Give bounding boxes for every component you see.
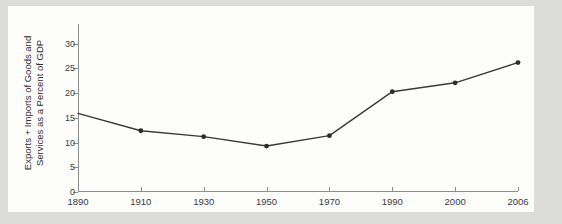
- x-tick-label: 2006: [507, 197, 528, 207]
- series-polyline: [78, 63, 518, 147]
- page-background: Exports + Imports of Goods and Services …: [0, 0, 562, 224]
- x-tick-label: 1910: [130, 197, 151, 207]
- y-tick-label: 15: [65, 113, 75, 122]
- chart-card: Exports + Imports of Goods and Services …: [8, 6, 534, 212]
- data-point-marker: [516, 60, 521, 65]
- data-point-marker: [453, 80, 458, 85]
- y-tick-label: 20: [65, 89, 75, 98]
- y-axis-title-text: Exports + Imports of Goods and Services …: [22, 18, 46, 188]
- y-tick-label: 5: [70, 163, 75, 172]
- y-tick-label: 30: [65, 39, 75, 48]
- y-tick-label: 25: [65, 64, 75, 73]
- data-point-marker: [138, 128, 143, 133]
- data-point-marker: [201, 134, 206, 139]
- data-point-marker: [390, 89, 395, 94]
- x-tick-mark: [518, 187, 519, 191]
- plot-area: 051015202530 189019101930195019701990200…: [78, 24, 518, 192]
- y-tick-label: 10: [65, 138, 75, 147]
- data-point-marker: [327, 133, 332, 138]
- x-tick-label: 1990: [382, 197, 403, 207]
- x-tick-label: 1950: [256, 197, 277, 207]
- series-line-chart: [78, 24, 518, 192]
- x-tick-label: 1970: [319, 197, 340, 207]
- series-markers: [138, 60, 520, 148]
- x-tick-label: 1890: [67, 197, 88, 207]
- x-tick-label: 2000: [445, 197, 466, 207]
- x-tick-label: 1930: [193, 197, 214, 207]
- data-point-marker: [264, 144, 269, 149]
